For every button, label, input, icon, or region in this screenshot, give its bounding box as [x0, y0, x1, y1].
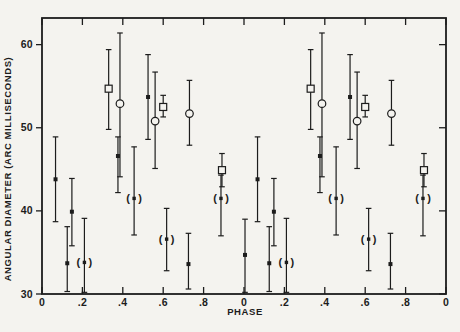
filled-square-marker — [272, 210, 276, 214]
filled-square-marker — [256, 177, 260, 181]
left-paren-glyph: ( — [361, 233, 365, 245]
x-tick-label: 0 — [39, 296, 45, 308]
angular-diameter-vs-phase-chart: 0.2.4.6.80.2.4.6.8030405060()()()()()()(… — [0, 0, 460, 332]
open-circle-marker — [116, 100, 124, 108]
filled-square-marker — [146, 95, 150, 99]
open-square-marker — [420, 167, 427, 174]
x-axis-title: PHASE — [227, 306, 263, 317]
left-paren-glyph: ( — [77, 256, 81, 268]
filled-square-marker — [70, 210, 74, 214]
filled-square-marker — [116, 154, 120, 158]
filled-square-marker — [243, 253, 247, 257]
paren-square-marker — [219, 197, 222, 200]
x-tick-label: .8 — [199, 296, 208, 308]
paren-square-marker — [285, 261, 288, 264]
filled-square-marker — [388, 262, 392, 266]
x-tick-label: 0 — [443, 296, 449, 308]
y-tick-label: 50 — [21, 121, 33, 133]
right-paren-glyph: ) — [340, 192, 344, 204]
paren-square-marker — [132, 197, 135, 200]
x-tick-label: .2 — [78, 296, 87, 308]
plot-frame — [42, 18, 446, 294]
filled-square-marker — [348, 95, 352, 99]
x-tick-label: .4 — [320, 296, 329, 308]
filled-square-marker — [54, 177, 58, 181]
paren-square-marker — [334, 197, 337, 200]
left-paren-glyph: ( — [415, 192, 419, 204]
y-axis-title: ANGULAR DIAMETER (ARC MILLISECONDS) — [2, 57, 13, 282]
open-square-marker — [218, 167, 225, 174]
filled-square-marker — [318, 154, 322, 158]
left-paren-glyph: ( — [126, 192, 130, 204]
x-tick-label: .4 — [118, 296, 127, 308]
x-tick-label: .6 — [159, 296, 168, 308]
filled-square-marker — [65, 261, 69, 265]
open-circle-marker — [388, 110, 396, 118]
left-paren-glyph: ( — [213, 192, 217, 204]
right-paren-glyph: ) — [291, 256, 295, 268]
right-paren-glyph: ) — [427, 192, 431, 204]
open-square-marker — [105, 85, 112, 92]
filled-square-marker — [267, 261, 271, 265]
open-circle-marker — [151, 117, 159, 125]
left-paren-glyph: ( — [159, 233, 163, 245]
paren-square-marker — [83, 261, 86, 264]
filled-square-marker — [186, 262, 190, 266]
x-tick-label: .8 — [401, 296, 410, 308]
y-tick-label: 40 — [21, 204, 33, 216]
y-tick-label: 30 — [21, 288, 33, 300]
open-square-marker — [307, 85, 314, 92]
left-paren-glyph: ( — [328, 192, 332, 204]
open-circle-marker — [186, 110, 194, 118]
open-circle-marker — [318, 100, 326, 108]
chart-layer: 0.2.4.6.80.2.4.6.8030405060()()()()()()(… — [21, 18, 449, 308]
right-paren-glyph: ) — [225, 192, 229, 204]
y-tick-label: 60 — [21, 38, 33, 50]
scanned-figure-page: 0.2.4.6.80.2.4.6.8030405060()()()()()()(… — [0, 0, 460, 332]
open-square-marker — [362, 103, 369, 110]
x-tick-label: .6 — [361, 296, 370, 308]
left-paren-glyph: ( — [279, 256, 283, 268]
right-paren-glyph: ) — [171, 233, 175, 245]
right-paren-glyph: ) — [138, 192, 142, 204]
right-paren-glyph: ) — [89, 256, 93, 268]
paren-square-marker — [421, 197, 424, 200]
right-paren-glyph: ) — [373, 233, 377, 245]
open-circle-marker — [353, 117, 361, 125]
paren-square-marker — [165, 237, 168, 240]
paren-square-marker — [367, 237, 370, 240]
open-square-marker — [160, 103, 167, 110]
x-tick-label: .2 — [280, 296, 289, 308]
